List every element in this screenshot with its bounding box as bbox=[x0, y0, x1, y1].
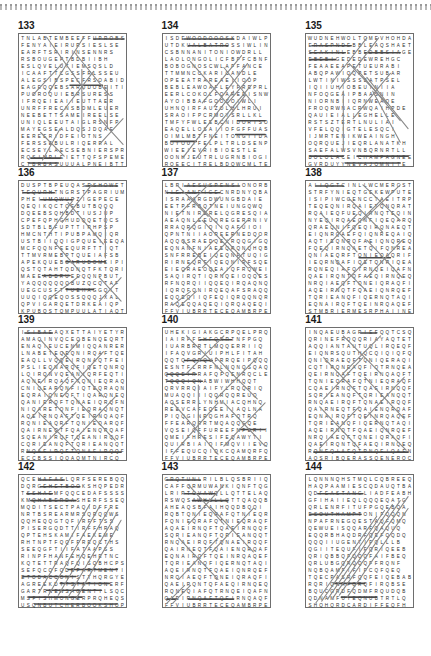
grid-cell: S bbox=[119, 595, 125, 602]
grid-letters: TNLABTEMBEEFFUPROBSFENYAIEIRURSIESLSEEAR… bbox=[19, 34, 126, 166]
puzzle-inner: 141INQAEUBAGRIEFQQTCSQQRINEFRQQQRIAYAQTE… bbox=[305, 314, 431, 461]
grid-cell: Q bbox=[263, 357, 269, 364]
grid-cell bbox=[407, 105, 413, 112]
grid-cell: I bbox=[263, 301, 269, 308]
puzzle-inner: 144LQNNNQHSTMQLCQBREEQHAQPAAMIESCQDAUQTB… bbox=[305, 461, 431, 608]
grid-cell: D bbox=[119, 77, 125, 84]
letter-grid[interactable]: GRQTUNLRILBLQSBRIIQCAFFQRMUWANKIQNFTQGLR… bbox=[162, 474, 271, 608]
grid-cell bbox=[407, 126, 413, 133]
grid-letters: DUSPTBPEUQASRSHOWETTEQURHTNGRSTPAGRIUMPH… bbox=[19, 181, 126, 313]
grid-cell: E bbox=[263, 161, 269, 168]
grid-cell: B bbox=[407, 574, 413, 581]
letter-grid[interactable]: ISDEWOODOOOSKDAIWLPUTDKUALBATROSSIWLINCS… bbox=[162, 33, 271, 167]
grid-cell: E bbox=[263, 455, 269, 462]
puzzle-number: 137 bbox=[162, 167, 288, 178]
grid-cell: I bbox=[407, 280, 413, 287]
grid-cell bbox=[407, 546, 413, 553]
grid-cell bbox=[407, 595, 413, 602]
grid-cell bbox=[119, 294, 125, 301]
puzzle-row: 139ISIBAEAQXETTAIYETYRAMAQINVQCEQBENQEQR… bbox=[0, 314, 431, 461]
grid-cell: R bbox=[263, 294, 269, 301]
grid-cell bbox=[119, 196, 125, 203]
puzzle-139: 139ISIBAEAQXETTAIYETYRAMAQINVQCEQBENQEQR… bbox=[0, 314, 144, 461]
puzzle-134: 134ISDEWOODOOOSKDAIWLPUTDKUALBATROSSIWLI… bbox=[144, 20, 288, 167]
grid-cell: T bbox=[407, 392, 413, 399]
grid-cell: T bbox=[263, 532, 269, 539]
grid-cell: Q bbox=[263, 238, 269, 245]
letter-grid[interactable]: QCEHAFASLQRFSEREBQQDQRGEHETBOOKSHQPEDRTS… bbox=[18, 474, 127, 608]
grid-cell bbox=[407, 567, 413, 574]
grid-cell: N bbox=[263, 42, 269, 49]
grid-cell: E bbox=[407, 308, 413, 315]
grid-cell: Q bbox=[119, 378, 125, 385]
puzzle-141: 141INQAEUBAGRIEFQQTCSQQRINEFRQQQRIAYAQTE… bbox=[287, 314, 431, 461]
grid-cell bbox=[119, 252, 125, 259]
puzzle-number: 144 bbox=[305, 461, 431, 472]
grid-cell: Q bbox=[263, 448, 269, 455]
puzzle-inner: 142QCEHAFASLQRFSEREBQQDQRGEHETBOOKSHQPED… bbox=[18, 461, 144, 608]
grid-cell: A bbox=[407, 364, 413, 371]
grid-cell: E bbox=[263, 602, 269, 609]
grid-cell bbox=[263, 147, 269, 154]
grid-cell: I bbox=[407, 434, 413, 441]
grid-cell: P bbox=[263, 35, 269, 42]
grid-cell: F bbox=[263, 546, 269, 553]
grid-cell: F bbox=[119, 448, 125, 455]
puzzle-number: 143 bbox=[162, 461, 288, 472]
grid-letters: QCEHAFASLQRFSEREBQQDQRGEHETBOOKSHQPEDRTS… bbox=[19, 475, 126, 607]
grid-cell: B bbox=[263, 245, 269, 252]
puzzle-inner: 133TNLABTEMBEEFFUPROBSFENYAIEIRURSIESLSE… bbox=[18, 20, 144, 167]
grid-cell: T bbox=[119, 182, 125, 189]
grid-cell bbox=[119, 105, 125, 112]
grid-cell: I bbox=[119, 567, 125, 574]
grid-cell bbox=[119, 140, 125, 147]
letter-grid[interactable]: AIIQGTCINLLWCMERCSTSTRFYNIEQTGEKEWPUTEIS… bbox=[305, 180, 414, 314]
grid-letters: ISDEWOODOOOSKDAIWLPUTDKUALBATROSSIWLINCS… bbox=[163, 34, 270, 166]
grid-cell: F bbox=[407, 413, 413, 420]
grid-cell: E bbox=[263, 259, 269, 266]
grid-cell bbox=[407, 581, 413, 588]
grid-cell bbox=[119, 224, 125, 231]
grid-cell: Q bbox=[407, 350, 413, 357]
puzzle-143: 143GRQTUNLRILBLQSBRIIQCAFFQRMUWANKIQNFTQ… bbox=[144, 461, 288, 608]
grid-cell: T bbox=[407, 336, 413, 343]
grid-cell bbox=[263, 98, 269, 105]
puzzle-inner: 135WUDNEHWOLTQMEVHOHDAERASPNDEBBLEAQSHAE… bbox=[305, 20, 431, 167]
grid-cell: A bbox=[407, 483, 413, 490]
letter-grid[interactable]: WUDNEHWOLTQMEVHOHDAERASPNDEBBLEAQSHAETSE… bbox=[305, 33, 414, 167]
letter-grid[interactable]: UHEKIGIAKGCRPQELPRQIAIRFFEHFQRRTNFPGQIUA… bbox=[162, 327, 271, 461]
grid-cell bbox=[407, 602, 413, 609]
grid-cell bbox=[119, 245, 125, 252]
grid-cell bbox=[119, 133, 125, 140]
grid-cell bbox=[407, 511, 413, 518]
puzzle-page: 133TNLABTEMBEEFFUPROBSFENYAIEIRURSIESLSE… bbox=[0, 20, 431, 656]
letter-grid[interactable]: LQNNNQHSTMQLCQBREEQHAQPAAMIESCQDAUQTBAQD… bbox=[305, 474, 414, 608]
grid-cell: P bbox=[263, 140, 269, 147]
grid-cell bbox=[119, 119, 125, 126]
grid-cell: Q bbox=[263, 329, 269, 336]
puzzle-144: 144LQNNNQHSTMQLCQBREEQHAQPAAMIESCQDAUQTB… bbox=[287, 461, 431, 608]
puzzle-142: 142QCEHAFASLQRFSEREBQQDQRGEHETBOOKSHQPED… bbox=[0, 461, 144, 608]
grid-cell: Q bbox=[263, 476, 269, 483]
grid-cell: A bbox=[263, 133, 269, 140]
letter-grid[interactable]: DUSPTBPEUQASRSHOWETTEQURHTNGRSTPAGRIUMPH… bbox=[18, 180, 127, 314]
grid-cell: N bbox=[263, 588, 269, 595]
grid-cell: S bbox=[119, 35, 125, 42]
letter-grid[interactable]: LBRIAESUSPENSIONORBNIEIANFIGECNRDNYQBAIS… bbox=[162, 180, 271, 314]
puzzle-row: 142QCEHAFASLQRFSEREBQQDQRGEHETBOOKSHQPED… bbox=[0, 461, 431, 608]
letter-grid[interactable]: ISIBAEAQXETTAIYETYRAMAQINVQCEQBENQEQRTEN… bbox=[18, 327, 127, 461]
grid-cell: Q bbox=[263, 490, 269, 497]
letter-grid[interactable]: INQAEUBAGRIEFQQTCSQQRINEFRQQQRIAYAQTETAQ… bbox=[305, 327, 414, 461]
grid-cell: E bbox=[407, 154, 413, 161]
grid-cell: F bbox=[407, 301, 413, 308]
grid-cell bbox=[407, 119, 413, 126]
letter-grid[interactable]: TNLABTEMBEEFFUPROBSFENYAIEIRURSIESLSEEAR… bbox=[18, 33, 127, 167]
grid-cell bbox=[119, 273, 125, 280]
puzzle-inner: 136DUSPTBPEUQASRSHOWETTEQURHTNGRSTPAGRIU… bbox=[18, 167, 144, 314]
grid-cell: T bbox=[119, 161, 125, 168]
page-perforation bbox=[0, 4, 431, 10]
grid-cell: F bbox=[263, 525, 269, 532]
grid-cell: S bbox=[263, 126, 269, 133]
grid-cell: I bbox=[263, 574, 269, 581]
grid-cell: E bbox=[119, 350, 125, 357]
